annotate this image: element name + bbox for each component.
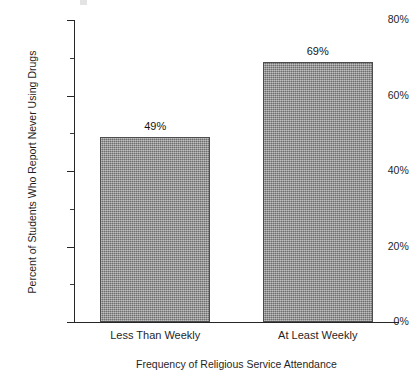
- y-axis-tick-minor: [70, 58, 74, 59]
- x-axis-tick-label: At Least Weekly: [238, 329, 398, 341]
- scan-artifact: [80, 0, 87, 5]
- y-axis-tick-minor: [70, 133, 74, 134]
- y-axis-title: Percent of Students Who Report Never Usi…: [26, 22, 38, 322]
- x-axis-tick-label: Less Than Weekly: [75, 329, 235, 341]
- y-axis-tick-major: [67, 96, 74, 97]
- y-axis-tick-major: [67, 20, 74, 21]
- bar-chart-figure: Percent of Students Who Report Never Usi…: [0, 0, 409, 382]
- bar-value-label: 49%: [115, 120, 195, 132]
- bar-value-label: 69%: [278, 45, 358, 57]
- y-axis-tick-major: [67, 247, 74, 248]
- y-axis-tick-label: 80%: [347, 13, 409, 25]
- y-axis-tick-minor: [70, 284, 74, 285]
- y-axis-tick-major: [67, 171, 74, 172]
- y-axis-tick-major: [67, 322, 74, 323]
- y-axis-tick-minor: [70, 209, 74, 210]
- x-axis-title: Frequency of Religious Service Attendanc…: [74, 358, 399, 370]
- bar: [263, 62, 373, 322]
- y-axis-line: [74, 20, 75, 323]
- bar: [100, 137, 210, 322]
